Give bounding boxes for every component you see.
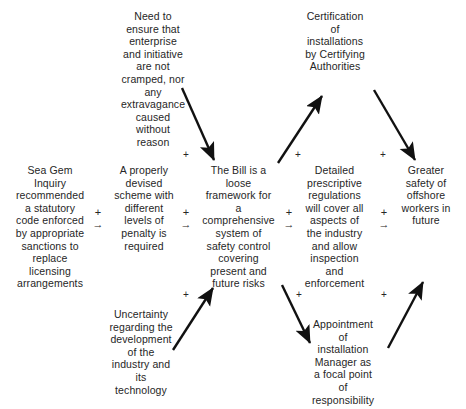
plus-label-uncertainty-to-bill: + bbox=[183, 290, 189, 300]
plus-label-bill-to-certification: + bbox=[295, 150, 301, 160]
connector-regulations-to-safety: + → bbox=[377, 206, 391, 230]
right-arrow-icon: → bbox=[179, 218, 193, 230]
node-the-bill: The Bill is a loose framework for a comp… bbox=[193, 164, 284, 290]
plus-label-appointment-to-safety: + bbox=[381, 290, 387, 300]
node-greater-safety: Greater safety of offshore workers in fu… bbox=[392, 164, 460, 227]
plus-sign: + bbox=[91, 206, 105, 218]
right-arrow-icon: → bbox=[377, 218, 391, 230]
node-certification: Certification of installations by Certif… bbox=[291, 10, 379, 73]
node-need-to-ensure: Need to ensure that enterprise and initi… bbox=[112, 10, 194, 149]
plus-label-need-to-bill: + bbox=[183, 150, 189, 160]
plus-sign: + bbox=[282, 206, 296, 218]
node-detailed-regulations: Detailed prescriptive regulations will c… bbox=[295, 164, 374, 290]
node-sea-gem-inquiry: Sea Gem Inquiry recommended a statutory … bbox=[6, 164, 94, 290]
causal-map-diagram: Need to ensure that enterprise and initi… bbox=[0, 0, 466, 409]
connector-bill-to-regulations: + → bbox=[282, 206, 296, 230]
plus-sign: + bbox=[179, 206, 193, 218]
node-appointment: Appointment of installation Manager as a… bbox=[302, 318, 384, 406]
plus-label-certification-to-safety: + bbox=[380, 150, 386, 160]
connector-inquiry-to-scheme: + → bbox=[91, 206, 105, 230]
plus-sign: + bbox=[377, 206, 391, 218]
arrow-appointment-to-safety bbox=[388, 282, 423, 348]
plus-label-bill-to-appointment: + bbox=[296, 290, 302, 300]
connector-scheme-to-bill: + → bbox=[179, 206, 193, 230]
node-uncertainty: Uncertainty regarding the development of… bbox=[99, 308, 183, 396]
node-properly-devised-scheme: A properly devised scheme with different… bbox=[105, 164, 183, 252]
right-arrow-icon: → bbox=[282, 218, 296, 230]
right-arrow-icon: → bbox=[91, 218, 105, 230]
